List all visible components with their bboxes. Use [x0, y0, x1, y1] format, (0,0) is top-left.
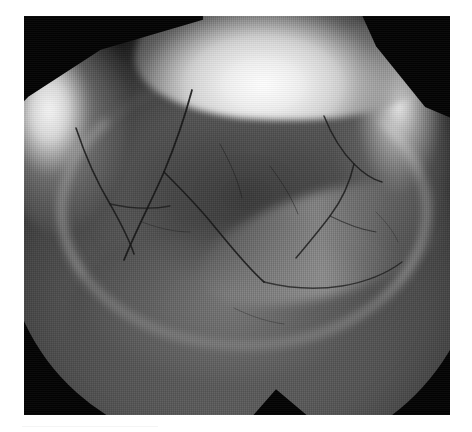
enamel-crack-network — [24, 16, 450, 415]
specimen-photograph — [24, 16, 450, 415]
page-canvas — [0, 0, 472, 432]
caption-rule — [22, 426, 158, 427]
